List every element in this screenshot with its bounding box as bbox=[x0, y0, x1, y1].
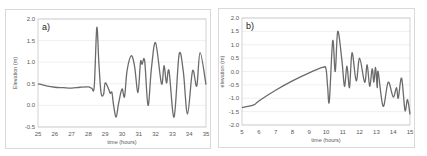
y-tick-label: 2.0 bbox=[231, 15, 240, 21]
y-tick-label: 0.5 bbox=[231, 55, 240, 61]
y-tick-label: 1.0 bbox=[27, 59, 36, 65]
x-tick-label: 28 bbox=[85, 131, 92, 137]
x-tick-label: 26 bbox=[51, 131, 58, 137]
y-tick-label: -0.5 bbox=[25, 124, 36, 130]
y-tick-label: -0.5 bbox=[229, 82, 240, 88]
x-axis-title: time (hours) bbox=[107, 139, 137, 145]
y-tick-label: -2.0 bbox=[229, 122, 240, 128]
x-tick-label: 27 bbox=[68, 131, 75, 137]
x-tick-label: 12 bbox=[356, 129, 363, 135]
y-axis-title: Elevation (m) bbox=[12, 57, 18, 90]
y-tick-label: -1.5 bbox=[229, 109, 240, 115]
x-tick-label: 13 bbox=[373, 129, 380, 135]
y-tick-label: 1.5 bbox=[231, 28, 240, 34]
y-tick-label: 1.5 bbox=[27, 38, 36, 44]
x-tick-label: 29 bbox=[102, 131, 109, 137]
x-tick-label: 5 bbox=[240, 129, 244, 135]
x-tick-label: 9 bbox=[308, 129, 312, 135]
y-tick-label: -1.0 bbox=[229, 95, 240, 101]
y-tick-label: 1.0 bbox=[231, 42, 240, 48]
data-series-line bbox=[242, 31, 410, 114]
line-chart-a: 2.01.51.00.50.0-0.5252627282930313233343… bbox=[6, 10, 212, 150]
y-axis-title: elevation (m) bbox=[219, 55, 225, 87]
x-tick-label: 15 bbox=[407, 129, 414, 135]
x-axis-title: time (hours) bbox=[311, 137, 341, 143]
x-tick-label: 14 bbox=[390, 129, 397, 135]
chart-panel-a: 2.01.51.00.50.0-0.5252627282930313233343… bbox=[5, 9, 211, 149]
y-tick-label: 2.0 bbox=[27, 16, 36, 22]
x-tick-label: 30 bbox=[119, 131, 126, 137]
x-tick-label: 34 bbox=[186, 131, 193, 137]
x-tick-label: 32 bbox=[152, 131, 159, 137]
x-tick-label: 11 bbox=[340, 129, 347, 135]
x-tick-label: 10 bbox=[323, 129, 330, 135]
panel-label: a) bbox=[42, 22, 50, 32]
x-tick-label: 35 bbox=[203, 131, 210, 137]
y-tick-label: 0.0 bbox=[231, 69, 240, 75]
x-tick-label: 7 bbox=[274, 129, 278, 135]
panel-label: b) bbox=[246, 21, 254, 31]
line-chart-b: 2.01.51.00.50.0-0.5-1.0-1.5-2.0567891011… bbox=[219, 9, 416, 149]
x-tick-label: 8 bbox=[291, 129, 295, 135]
x-tick-label: 25 bbox=[35, 131, 42, 137]
x-tick-label: 31 bbox=[135, 131, 142, 137]
chart-panel-b: 2.01.51.00.50.0-0.5-1.0-1.5-2.0567891011… bbox=[218, 8, 415, 148]
y-tick-label: 0.5 bbox=[27, 81, 36, 87]
plot-area bbox=[38, 19, 206, 127]
x-tick-label: 6 bbox=[257, 129, 261, 135]
y-tick-label: 0.0 bbox=[27, 102, 36, 108]
x-tick-label: 33 bbox=[169, 131, 176, 137]
